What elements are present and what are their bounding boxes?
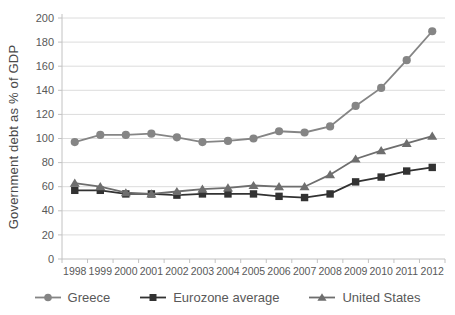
data-point-2010	[377, 173, 384, 180]
data-point-2012	[428, 27, 436, 35]
x-tick-label: 1998	[63, 265, 87, 277]
y-tick-label: 20	[42, 229, 54, 241]
y-tick-label: 140	[36, 84, 54, 96]
data-point-2009	[352, 102, 360, 110]
square-marker-icon	[140, 292, 166, 303]
data-point-2002	[173, 133, 181, 141]
y-axis-title: Government debt as % of GDP	[6, 45, 21, 230]
triangle-marker-icon	[309, 292, 335, 303]
x-tick-label: 2003	[191, 265, 215, 277]
data-point-2007	[301, 194, 308, 201]
x-tick-label: 2010	[369, 265, 393, 277]
data-point-2005	[249, 134, 257, 142]
x-tick-label: 2012	[421, 265, 445, 277]
data-point-2008	[326, 190, 333, 197]
legend-label-eurozone: Eurozone average	[173, 290, 279, 305]
x-tick-label: 2004	[216, 265, 240, 277]
data-point-2009	[352, 178, 359, 185]
x-tick-label: 2006	[267, 265, 291, 277]
legend-label-us: United States	[342, 290, 420, 305]
data-point-2003	[198, 138, 206, 146]
x-tick-label: 2009	[344, 265, 368, 277]
data-point-2005	[250, 190, 257, 197]
y-tick-label: 40	[42, 204, 54, 216]
x-tick-label: 2000	[114, 265, 138, 277]
y-tick-label: 160	[36, 60, 54, 72]
data-point-2006	[275, 193, 282, 200]
y-tick-label: 120	[36, 108, 54, 120]
data-point-2010	[377, 84, 385, 92]
data-point-2008	[326, 122, 334, 130]
x-tick-label: 2002	[165, 265, 189, 277]
y-tick-label: 180	[36, 36, 54, 48]
x-tick-label: 2008	[318, 265, 342, 277]
data-point-2004	[224, 137, 232, 145]
y-tick-label: 200	[36, 12, 54, 24]
data-point-2006	[275, 127, 283, 135]
debt-line-chart: 0204060801001201401601802001998199920002…	[0, 0, 455, 315]
series-greece	[71, 27, 437, 146]
data-point-2000	[122, 131, 130, 139]
x-tick-label: 2005	[242, 265, 266, 277]
legend-item-us: United States	[309, 290, 420, 305]
circle-marker-icon	[35, 292, 61, 303]
chart-figure: 0204060801001201401601802001998199920002…	[0, 0, 455, 315]
y-tick-label: 80	[42, 156, 54, 168]
data-point-2011	[403, 56, 411, 64]
x-tick-label: 2007	[293, 265, 317, 277]
data-point-2001	[147, 130, 155, 138]
legend-label-greece: Greece	[68, 290, 111, 305]
chart-legend: Greece Eurozone average United States	[0, 287, 455, 307]
square-glyph	[150, 294, 157, 301]
data-point-1998	[71, 138, 79, 146]
data-point-2008	[325, 170, 335, 178]
data-point-2012	[427, 131, 437, 139]
y-tick-label: 100	[36, 132, 54, 144]
y-tick-label: 0	[48, 253, 54, 265]
y-tick-label: 60	[42, 180, 54, 192]
x-tick-label: 2011	[395, 265, 418, 277]
legend-item-greece: Greece	[35, 290, 111, 305]
x-tick-label: 2001	[140, 265, 164, 277]
x-tick-label: 1999	[89, 265, 113, 277]
data-point-1998	[70, 178, 80, 186]
data-point-2007	[300, 128, 308, 136]
data-point-2011	[403, 167, 410, 174]
data-point-1998	[71, 187, 78, 194]
circle-glyph	[44, 293, 52, 301]
data-point-1999	[96, 131, 104, 139]
legend-item-eurozone: Eurozone average	[140, 290, 279, 305]
data-point-2012	[429, 164, 436, 171]
